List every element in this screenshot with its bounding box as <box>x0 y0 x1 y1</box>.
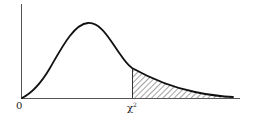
density-curve <box>22 23 233 98</box>
shaded-tail-region <box>132 60 242 100</box>
origin-label: 0 <box>16 101 22 111</box>
critical-value-label: χ2 <box>127 102 137 113</box>
chi-superscript: 2 <box>133 101 137 108</box>
